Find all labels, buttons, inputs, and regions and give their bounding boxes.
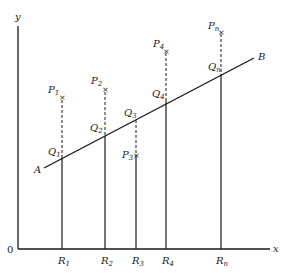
svg-text:R1: R1 — [57, 255, 70, 268]
svg-text:R3: R3 — [131, 255, 145, 268]
point-group-2: × P2 Q2 R2 — [90, 75, 114, 268]
cross-marker-icon: × — [102, 85, 109, 94]
point-group-1: × P1 Q1 R1 — [47, 84, 70, 268]
point-group-3: × P3 Q3 R3 — [121, 107, 145, 268]
svg-text:R2: R2 — [100, 255, 114, 268]
svg-text:Rn: Rn — [215, 255, 229, 268]
svg-text:P2: P2 — [90, 75, 103, 88]
point-group-4: × P4 Q4 R4 — [152, 38, 174, 268]
origin-label: 0 — [7, 244, 13, 255]
line-ab — [44, 58, 254, 168]
x-axis-label: x — [273, 243, 279, 254]
svg-text:Q4: Q4 — [152, 88, 165, 101]
svg-text:Pn: Pn — [207, 20, 220, 33]
svg-text:Q3: Q3 — [124, 107, 137, 120]
line-end-label-b: B — [257, 51, 265, 62]
svg-text:R4: R4 — [161, 255, 174, 268]
svg-text:Q2: Q2 — [90, 122, 103, 135]
point-group-n: × Pn Qn Rn — [207, 20, 229, 268]
cross-marker-icon: × — [133, 151, 140, 160]
svg-text:Q1: Q1 — [48, 146, 61, 159]
svg-text:P1: P1 — [47, 84, 59, 97]
line-start-label-a: A — [33, 164, 41, 175]
cross-marker-icon: × — [59, 93, 66, 102]
y-axis-label: y — [14, 11, 21, 22]
regression-diagram: y x 0 A B × P1 Q1 R1 × P2 Q2 R2 × P3 Q3 … — [0, 0, 284, 273]
svg-text:Qn: Qn — [208, 61, 221, 74]
svg-text:P3: P3 — [121, 149, 134, 162]
svg-text:P4: P4 — [152, 38, 164, 51]
